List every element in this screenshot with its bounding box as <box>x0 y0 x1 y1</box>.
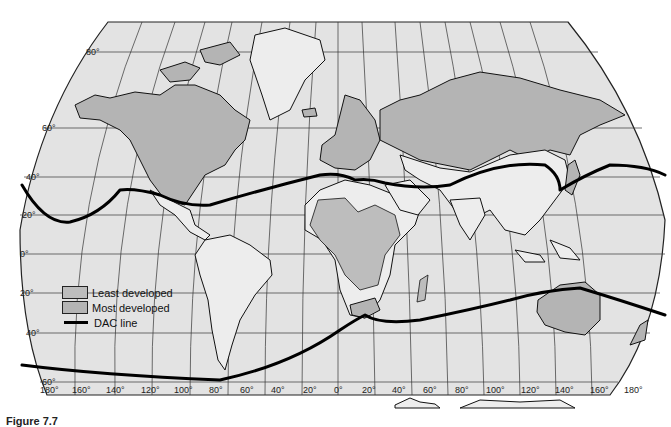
svg-text:140°: 140° <box>106 385 125 395</box>
svg-text:40°: 40° <box>271 385 285 395</box>
svg-text:20°: 20° <box>303 385 317 395</box>
svg-text:80°: 80° <box>455 385 469 395</box>
least-developed-swatch <box>62 286 88 299</box>
svg-text:0°: 0° <box>20 249 29 259</box>
legend: Least developed Most developed DAC line <box>62 285 173 330</box>
iceland <box>302 108 317 117</box>
svg-text:20°: 20° <box>20 288 34 298</box>
legend-item-most-developed: Most developed <box>62 300 173 315</box>
svg-text:60°: 60° <box>42 123 56 133</box>
dac-line-swatch <box>64 321 88 324</box>
legend-item-least-developed: Least developed <box>62 285 173 300</box>
svg-text:40°: 40° <box>26 328 40 338</box>
svg-text:60°: 60° <box>240 385 254 395</box>
svg-text:40°: 40° <box>26 172 40 182</box>
svg-text:100°: 100° <box>174 385 193 395</box>
legend-item-dac-line: DAC line <box>62 315 173 330</box>
svg-text:100°: 100° <box>486 385 505 395</box>
figure-caption: Figure 7.7 <box>6 415 58 427</box>
svg-text:60°: 60° <box>423 385 437 395</box>
svg-text:20°: 20° <box>362 385 376 395</box>
svg-text:180°: 180° <box>40 385 59 395</box>
svg-text:140°: 140° <box>555 385 574 395</box>
svg-text:120°: 120° <box>521 385 540 395</box>
legend-label: Least developed <box>92 287 173 299</box>
svg-text:20°: 20° <box>22 210 36 220</box>
antarctica <box>395 398 575 408</box>
svg-text:40°: 40° <box>392 385 406 395</box>
svg-text:80°: 80° <box>86 47 100 57</box>
svg-text:160°: 160° <box>590 385 609 395</box>
svg-text:160°: 160° <box>72 385 91 395</box>
svg-text:0°: 0° <box>334 385 343 395</box>
svg-text:120°: 120° <box>141 385 160 395</box>
svg-text:80°: 80° <box>209 385 223 395</box>
legend-label: Most developed <box>92 302 170 314</box>
most-developed-swatch <box>62 301 88 314</box>
svg-text:180°: 180° <box>624 385 643 395</box>
legend-label: DAC line <box>94 317 137 329</box>
